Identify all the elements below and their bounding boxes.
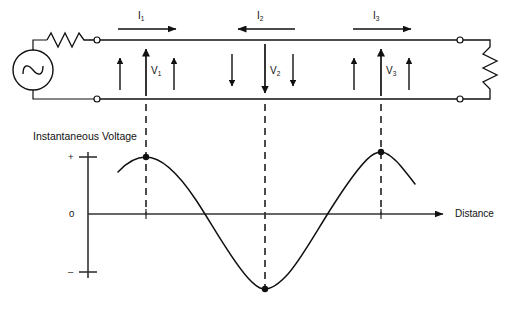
- y-tick-label-plus: +: [68, 152, 74, 162]
- voltage-arrows-V2: [232, 44, 293, 93]
- x-axis-label: Distance: [455, 209, 494, 219]
- voltage-label-V1: V1: [151, 66, 161, 76]
- current-label-I2: I2: [257, 11, 263, 21]
- voltage-label-V3: V3: [386, 66, 396, 76]
- marker-dot-V1: [143, 154, 149, 160]
- series-resistor: [47, 33, 95, 47]
- terminal-top-left: [94, 37, 100, 43]
- diagram-canvas: I1 I2 I3 V1 V2 V3 Instantaneous Voltage …: [0, 0, 518, 320]
- graph-title: Instantaneous Voltage: [33, 131, 137, 142]
- load-resistor: [463, 40, 497, 99]
- sine-wave-icon: [23, 66, 43, 74]
- voltage-label-V2: V2: [270, 66, 280, 76]
- voltage-arrows-V3: [354, 49, 409, 96]
- marker-dot-V3: [378, 149, 384, 155]
- source-top-lead: [33, 40, 47, 50]
- terminal-top-right: [457, 37, 463, 43]
- ac-source: [13, 50, 53, 90]
- current-label-I3: I3: [373, 11, 379, 21]
- voltage-arrows-V1: [120, 49, 174, 96]
- marker-dot-V2: [262, 286, 268, 292]
- y-tick-label-minus: –: [68, 267, 73, 277]
- current-label-I1: I1: [138, 11, 144, 21]
- terminal-bottom-right: [457, 96, 463, 102]
- y-tick-label-zero: 0: [69, 209, 74, 219]
- terminal-bottom-left: [94, 96, 100, 102]
- transmission-line-figure: [0, 0, 518, 320]
- standing-wave-curve: [118, 152, 415, 289]
- source-bottom-lead: [33, 90, 95, 99]
